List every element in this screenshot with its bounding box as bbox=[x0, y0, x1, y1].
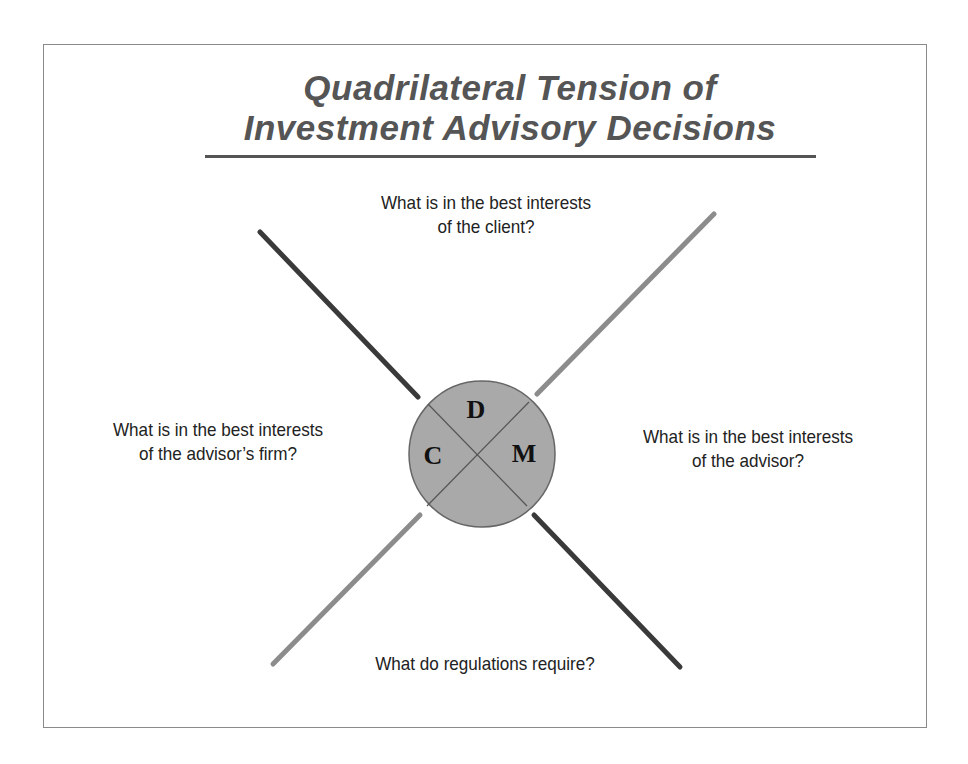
circle-label-m: M bbox=[512, 439, 537, 468]
question-client-line-1: What is in the best interests bbox=[342, 191, 630, 215]
decision-circle: D C M bbox=[409, 381, 555, 527]
question-firm-line-2: of the advisor’s firm? bbox=[83, 442, 353, 466]
question-regulations-line-1: What do regulations require? bbox=[346, 652, 625, 676]
lower-left-line bbox=[273, 515, 420, 664]
circle-label-d: D bbox=[467, 395, 486, 424]
lower-right-line bbox=[534, 515, 680, 667]
question-regulations: What do regulations require? bbox=[346, 652, 625, 676]
question-advisor-line-2: of the advisor? bbox=[613, 449, 883, 473]
upper-right-line bbox=[537, 214, 714, 394]
question-advisor-line-1: What is in the best interests bbox=[613, 425, 883, 449]
upper-left-line bbox=[260, 232, 418, 397]
question-client-line-2: of the client? bbox=[342, 215, 630, 239]
question-firm-line-1: What is in the best interests bbox=[83, 418, 353, 442]
tension-diagram: D C M bbox=[0, 0, 968, 764]
question-advisor: What is in the best interests of the adv… bbox=[613, 425, 883, 473]
question-client: What is in the best interests of the cli… bbox=[342, 191, 630, 239]
question-advisors-firm: What is in the best interests of the adv… bbox=[83, 418, 353, 466]
circle-label-c: C bbox=[424, 441, 443, 470]
